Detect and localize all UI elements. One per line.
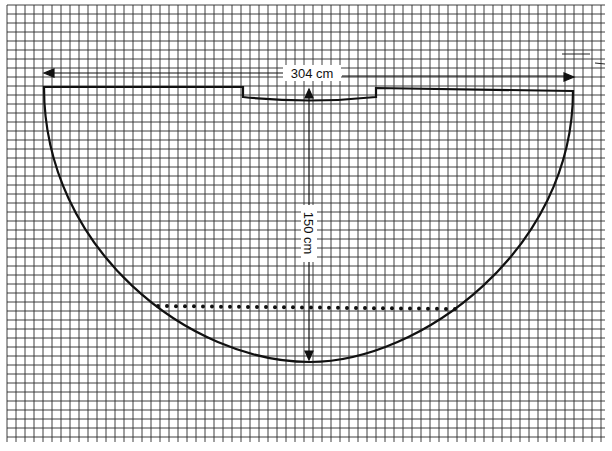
width-label: 304 cm [291, 66, 334, 81]
cape-pattern-diagram: 304 cm 150 cm [0, 0, 612, 451]
length-label: 150 cm [301, 212, 316, 255]
